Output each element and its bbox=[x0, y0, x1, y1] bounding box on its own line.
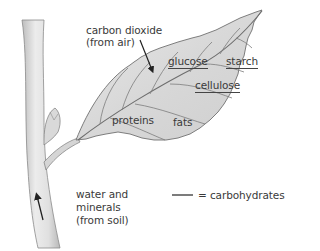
starch-label: starch bbox=[226, 55, 258, 69]
proteins-label: proteins bbox=[112, 114, 154, 126]
fats-label: fats bbox=[173, 116, 192, 128]
carbon-dioxide-label: carbon dioxide (from air) bbox=[86, 24, 162, 48]
bud bbox=[44, 108, 60, 145]
carbon-dioxide-line2: (from air) bbox=[86, 36, 135, 48]
water-label: water and minerals (from soil) bbox=[76, 188, 129, 227]
water-line1: water and bbox=[76, 188, 128, 200]
glucose-label: glucose bbox=[168, 55, 208, 69]
water-line2: minerals bbox=[76, 201, 121, 213]
petiole bbox=[44, 138, 80, 170]
legend-text: = carbohydrates bbox=[198, 189, 285, 201]
carbon-dioxide-line1: carbon dioxide bbox=[86, 24, 162, 36]
water-line3: (from soil) bbox=[76, 214, 129, 226]
cellulose-label: cellulose bbox=[195, 79, 240, 93]
